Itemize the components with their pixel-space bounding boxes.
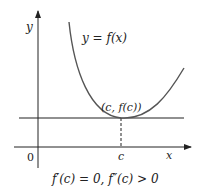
c-tick-label: c	[118, 150, 124, 163]
origin-label: 0	[27, 151, 34, 164]
point-label: (c, f(c))	[101, 101, 142, 114]
curve-label: y = f(x)	[81, 31, 127, 45]
x-axis-label: x	[166, 149, 173, 162]
second-derivative-test-diagram: y y = f(x) (c, f(c)) 0 c x f′(c) = 0, f″…	[0, 0, 202, 188]
caption: f′(c) = 0, f″(c) > 0	[51, 172, 159, 186]
y-axis-label: y	[25, 20, 33, 34]
